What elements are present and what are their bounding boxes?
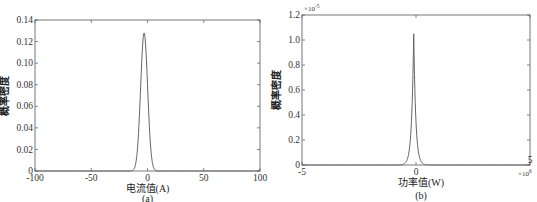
panel-b-x-multiplier-base: ×10 — [518, 170, 529, 178]
panel-b-x-axis-label: 功率值(W) — [398, 176, 444, 189]
figure: 00.020.040.060.080.100.120.14 -100-50050… — [0, 0, 537, 202]
panel-a-y-ticks: 00.020.040.060.080.100.120.14 — [16, 15, 260, 176]
x-tick-label: 0 — [145, 173, 150, 183]
y-tick-label: 0.06 — [16, 101, 33, 111]
panel-b-y-multiplier-base: ×10 — [304, 5, 315, 13]
x-tick-label: 5 — [528, 155, 533, 165]
panel-a-x-ticks: -100-50050100 — [26, 20, 267, 183]
panel-a-pdf-curve — [35, 33, 260, 171]
x-tick-label: 0 — [414, 167, 419, 177]
panel-a-y-axis-label: 概率密度 — [0, 75, 10, 116]
panel-b-power-pdf: 00.20.40.60.81.01.2 -505 ×10-5 ×106 功率值(… — [270, 3, 533, 202]
panel-b-y-axis-label: 概率密度 — [270, 69, 282, 110]
panel-b-x-multiplier: ×106 — [518, 168, 532, 178]
y-tick-label: 0.8 — [288, 60, 300, 70]
panel-a-current-pdf: 00.020.040.060.080.100.120.14 -100-50050… — [0, 15, 267, 202]
y-tick-label: 0.04 — [16, 123, 33, 133]
panel-b-pdf-curve — [302, 34, 530, 165]
panel-b-axes-box — [302, 15, 530, 165]
x-tick-label: 50 — [199, 173, 209, 183]
x-tick-label: -5 — [298, 167, 306, 177]
x-tick-label: -100 — [26, 173, 44, 183]
panel-b-y-multiplier: ×10-5 — [304, 3, 320, 13]
y-tick-label: 0.10 — [16, 58, 33, 68]
y-tick-label: 0.08 — [16, 80, 33, 90]
y-tick-label: 0.12 — [16, 37, 33, 47]
y-tick-label: 0.6 — [288, 85, 300, 95]
y-tick-label: 0.2 — [288, 135, 300, 145]
panel-b-x-multiplier-exp: 6 — [529, 168, 532, 174]
panel-b-caption: (b) — [415, 190, 427, 202]
panel-b-y-multiplier-exp: -5 — [315, 3, 320, 9]
y-tick-label: 0.4 — [288, 110, 300, 120]
x-tick-label: 100 — [253, 173, 268, 183]
y-tick-label: 1.0 — [288, 35, 300, 45]
panel-a-caption: (a) — [142, 193, 153, 202]
y-tick-label: 0.02 — [16, 145, 33, 155]
y-tick-label: 0.14 — [16, 15, 33, 25]
x-tick-label: -50 — [85, 173, 98, 183]
y-tick-label: 1.2 — [288, 10, 300, 20]
panel-b-y-ticks: 00.20.40.60.81.01.2 — [288, 10, 530, 170]
